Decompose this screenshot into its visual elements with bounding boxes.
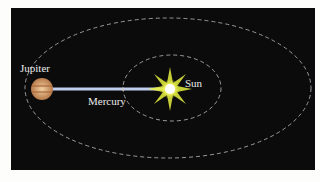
mercury-label: Mercury — [88, 95, 126, 107]
mercury-icon — [122, 88, 125, 91]
jupiter-icon — [31, 78, 53, 100]
sun-icon — [148, 67, 192, 111]
jupiter-label: Jupiter — [20, 62, 50, 74]
orbit-diagram: Jupiter Mercury Sun — [0, 0, 320, 182]
sun-label: Sun — [185, 77, 203, 89]
